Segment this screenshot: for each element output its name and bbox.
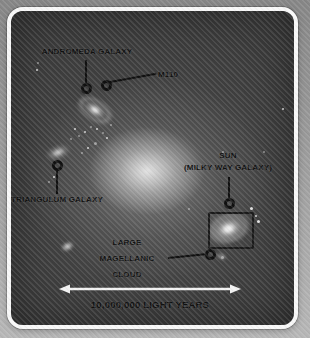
star (78, 135, 80, 137)
lmc-label-line1: LARGE (100, 235, 155, 251)
space-image: ANDROMEDA GALAXY M110 TRIANGULUM GALAXY … (11, 11, 294, 325)
star (94, 142, 97, 145)
andromeda-label: ANDROMEDA GALAXY (42, 47, 133, 56)
lmc-marker (205, 249, 216, 260)
scale-arrow-right-head (230, 285, 241, 294)
m110-marker (101, 80, 112, 91)
star (221, 256, 224, 259)
andromeda-marker (81, 83, 92, 94)
scale-label: 10,000,000 LIGHT YEARS (91, 299, 209, 310)
andromeda-leader-line (85, 60, 87, 84)
milky-way-selection-box (208, 212, 254, 249)
lmc-label: LARGE MAGELLANIC CLOUD (100, 235, 155, 283)
star (53, 176, 55, 178)
triangulum-label: TRIANGULUM GALAXY (11, 195, 103, 204)
star (110, 124, 112, 126)
star (255, 215, 257, 217)
lmc-leader-line (168, 253, 205, 259)
lmc-label-line2: MAGELLANIC (100, 251, 155, 267)
star (282, 108, 284, 110)
star (70, 138, 72, 140)
sun-label: SUN (MILKY WAY GALAXY) (184, 150, 272, 174)
triangulum-leader-line (56, 171, 58, 194)
star (37, 62, 39, 64)
star (48, 181, 50, 183)
sun-marker (224, 198, 235, 209)
local-group-photo-frame: ANDROMEDA GALAXY M110 TRIANGULUM GALAXY … (7, 7, 298, 329)
star (188, 208, 190, 210)
m110-leader-line (110, 73, 157, 83)
scale-arrow (55, 280, 245, 298)
star (84, 131, 86, 133)
m110-label: M110 (158, 70, 178, 79)
star (36, 69, 38, 71)
star (90, 126, 92, 128)
triangulum-marker (52, 160, 63, 171)
small-galaxy (60, 240, 76, 254)
star (81, 152, 83, 154)
sun-label-line1: SUN (184, 150, 272, 162)
star (96, 128, 98, 130)
star (250, 207, 253, 210)
star (102, 132, 104, 134)
star (87, 147, 89, 149)
star (257, 220, 260, 223)
star (74, 128, 76, 130)
wallpaper: ANDROMEDA GALAXY M110 TRIANGULUM GALAXY … (0, 0, 310, 338)
sun-leader-line (228, 177, 230, 199)
scale-arrow-left-head (59, 285, 70, 294)
star (106, 137, 108, 139)
sun-label-line2: (MILKY WAY GALAXY) (184, 162, 272, 174)
